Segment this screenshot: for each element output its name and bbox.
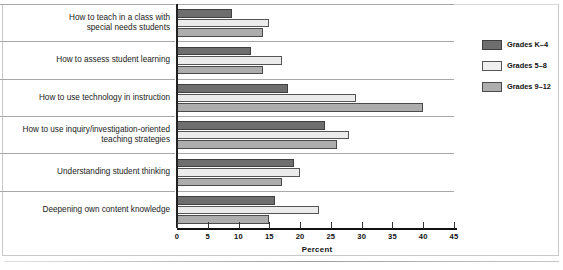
category-label: How to assess student learning	[56, 55, 170, 66]
x-axis-tick	[392, 222, 393, 229]
x-axis-tick-label: 40	[419, 232, 428, 241]
x-axis-tick-label: 25	[326, 232, 335, 241]
legend-label: Grades K–4	[507, 40, 548, 49]
legend-label: Grades 5–8	[507, 61, 547, 70]
bar	[177, 206, 319, 215]
category-row: How to use inquiry/investigation-oriente…	[0, 116, 175, 153]
chart-container: How to teach in a class with special nee…	[0, 0, 563, 270]
x-axis-line	[177, 228, 457, 230]
x-axis-tick-label: 10	[234, 232, 243, 241]
bar-group	[177, 116, 454, 153]
legend-item: Grades 5–8	[482, 57, 560, 74]
bar	[177, 178, 282, 187]
category-row: Deepening own content knowledge	[0, 191, 175, 228]
bar	[177, 140, 337, 149]
x-axis-tick	[331, 222, 332, 229]
x-axis-tick	[362, 222, 363, 229]
category-label: How to use inquiry/investigation-oriente…	[23, 125, 170, 146]
x-axis-tick	[423, 222, 424, 229]
bar-group	[177, 191, 454, 228]
x-axis-tick	[300, 222, 301, 229]
bar-group	[177, 41, 454, 78]
category-labels-column: How to teach in a class with special nee…	[0, 4, 175, 228]
bar	[177, 84, 288, 93]
bottom-divider	[4, 261, 559, 262]
bar	[177, 121, 325, 130]
bar	[177, 47, 251, 56]
category-row: Understanding student thinking	[0, 153, 175, 190]
category-label: Deepening own content knowledge	[43, 205, 170, 216]
category-label: Understanding student thinking	[57, 167, 170, 178]
bar	[177, 66, 263, 75]
category-label: How to teach in a class with special nee…	[69, 13, 170, 34]
x-axis-tick-label: 35	[388, 232, 397, 241]
x-axis-tick	[177, 222, 178, 229]
x-axis-tick-label: 15	[265, 232, 274, 241]
zero-axis-line	[176, 4, 178, 228]
bar	[177, 94, 356, 103]
legend-label: Grades 9–12	[507, 82, 551, 91]
chart-legend: Grades K–4Grades 5–8Grades 9–12	[482, 36, 560, 99]
bar-group	[177, 153, 454, 190]
bar	[177, 159, 294, 168]
plot-area: How to teach in a class with special nee…	[0, 4, 470, 236]
bar	[177, 9, 232, 18]
bar-group	[177, 4, 454, 41]
bar	[177, 168, 300, 177]
x-axis-tick-label: 0	[175, 232, 179, 241]
category-label: How to use technology in instruction	[39, 93, 170, 104]
x-axis-tick-label: 5	[206, 232, 210, 241]
legend-swatch-icon	[482, 82, 502, 92]
bar-group	[177, 79, 454, 116]
bar	[177, 28, 263, 37]
legend-item: Grades K–4	[482, 36, 560, 53]
category-row: How to teach in a class with special nee…	[0, 4, 175, 41]
x-axis-title: Percent	[177, 245, 457, 254]
bar	[177, 196, 275, 205]
legend-swatch-icon	[482, 61, 502, 71]
x-axis-tick-label: 45	[450, 232, 459, 241]
bar	[177, 131, 349, 140]
bar	[177, 56, 282, 65]
x-axis-tick-label: 20	[296, 232, 305, 241]
category-row: How to use technology in instruction	[0, 79, 175, 116]
x-axis-tick	[208, 222, 209, 229]
x-axis-tick	[454, 222, 455, 229]
bar	[177, 103, 423, 112]
bar	[177, 215, 269, 224]
bars-column	[177, 4, 454, 228]
x-axis-tick	[239, 222, 240, 229]
category-row: How to assess student learning	[0, 41, 175, 78]
x-axis-tick-label: 30	[357, 232, 366, 241]
x-axis-tick	[269, 222, 270, 229]
legend-item: Grades 9–12	[482, 78, 560, 95]
bar	[177, 19, 269, 28]
legend-swatch-icon	[482, 40, 502, 50]
